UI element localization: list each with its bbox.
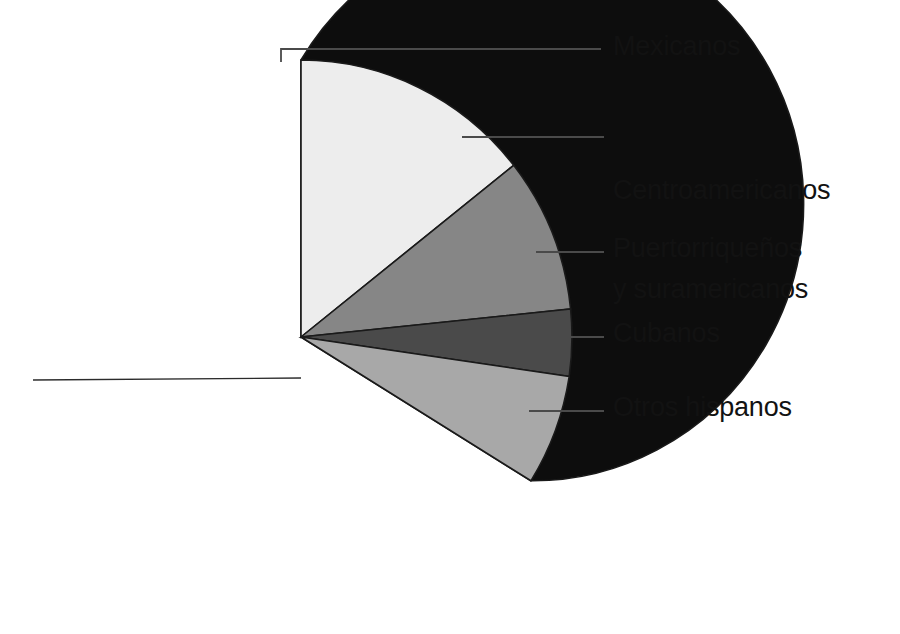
pie-label-centroamericanos-line2: y suramericanos <box>613 273 830 306</box>
pie-label-cubanos: Cubanos <box>613 317 720 350</box>
pie-label-mexicanos: Mexicanos <box>613 30 740 63</box>
pie-chart-figure: Mexicanos Centroamericanos y suramerican… <box>0 0 900 634</box>
pie-label-otros-hispanos: Otros hispanos <box>613 391 792 424</box>
pie-label-puertorriquenos: Puertorriqueños <box>613 232 802 265</box>
pie-seam-line <box>33 378 301 380</box>
pie-label-centroamericanos-line1: Centroamericanos <box>613 174 830 207</box>
